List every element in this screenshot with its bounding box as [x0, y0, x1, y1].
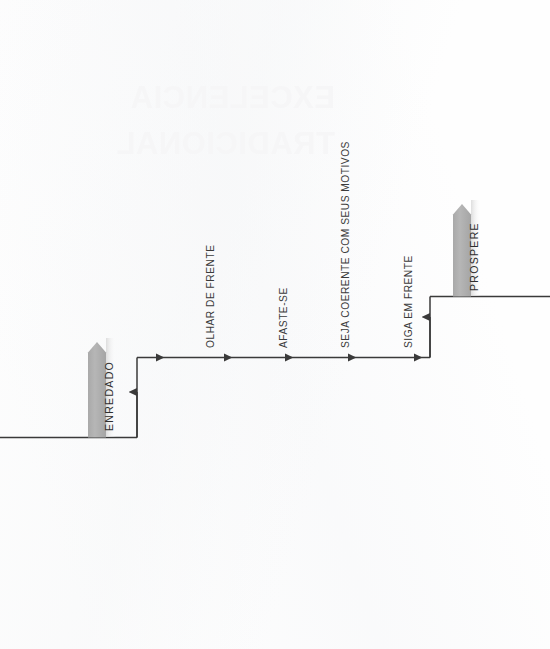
tread-segment — [137, 354, 430, 362]
start-banner-label: ENREDADO — [103, 361, 115, 431]
staircase-diagram — [0, 0, 550, 649]
page-canvas: EXCELENCIA TRADICIONAL — [0, 0, 550, 649]
end-banner-label: PROSPERE — [468, 222, 480, 291]
